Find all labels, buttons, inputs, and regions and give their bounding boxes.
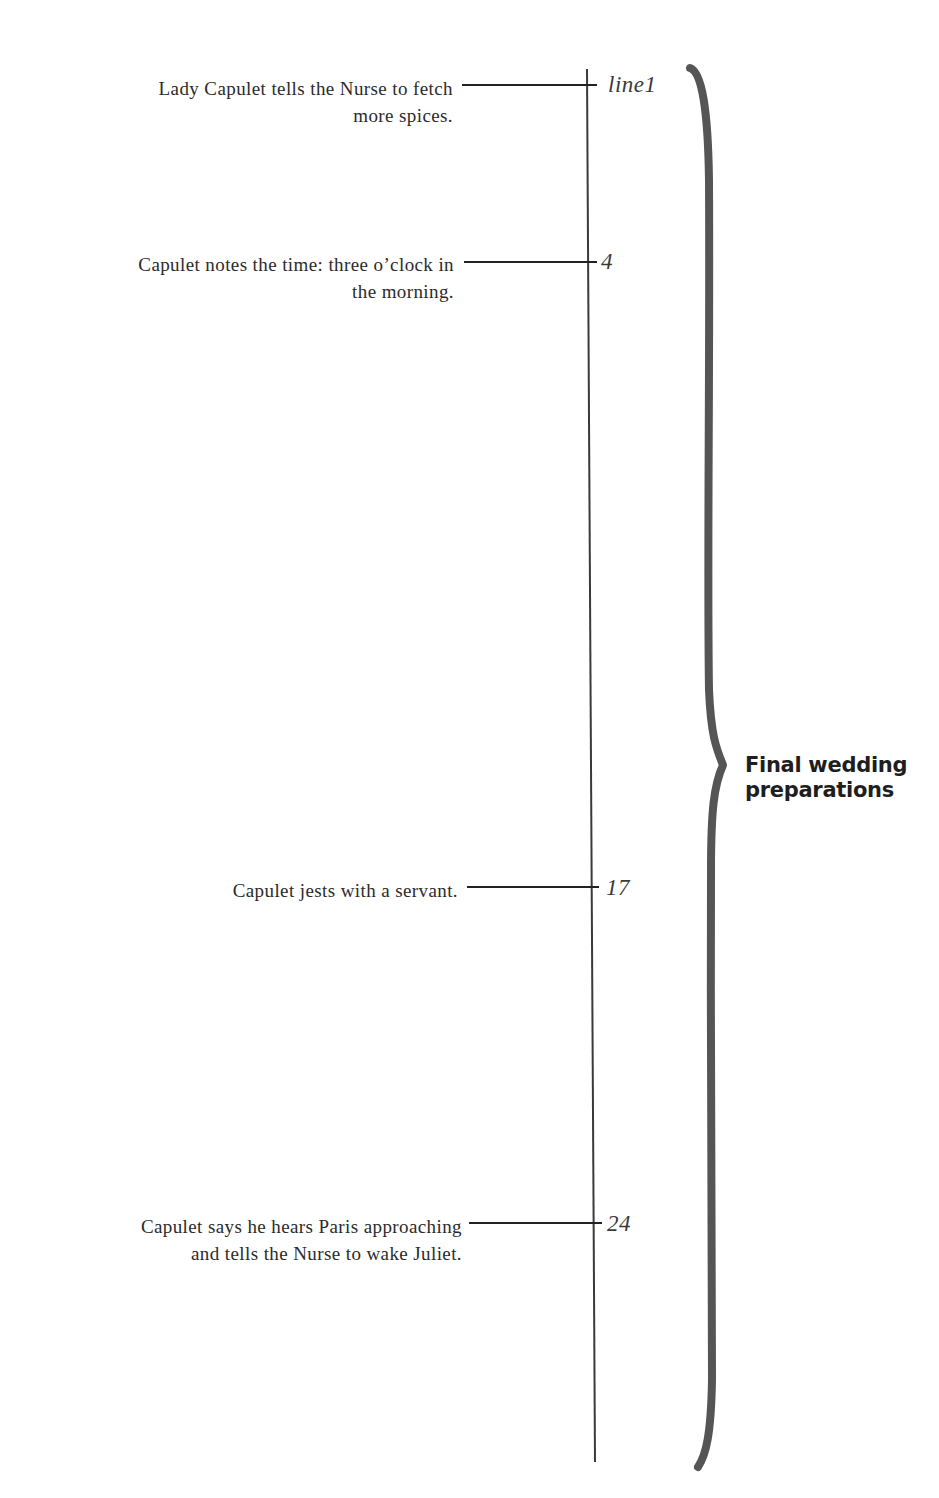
curly-brace-icon xyxy=(690,68,723,1467)
line-number-label: 24 xyxy=(607,1211,631,1237)
event-text-line: Capulet says he hears Paris approaching xyxy=(141,1213,462,1240)
event-description: Lady Capulet tells the Nurse to fetch mo… xyxy=(159,75,453,129)
event-text-line: and tells the Nurse to wake Juliet. xyxy=(141,1240,462,1267)
brace-label-line: Final wedding xyxy=(745,753,907,778)
line-number-label: 4 xyxy=(601,249,613,275)
brace-label: Final wedding preparations xyxy=(745,753,907,803)
event-text-line: more spices. xyxy=(159,102,453,129)
event-text-line: the morning. xyxy=(138,278,454,305)
event-description: Capulet says he hears Paris approaching … xyxy=(141,1213,462,1267)
brace-label-line: preparations xyxy=(745,778,907,803)
event-text-line: Lady Capulet tells the Nurse to fetch xyxy=(159,75,453,102)
event-text-line: Capulet jests with a servant. xyxy=(233,877,458,904)
event-description: Capulet jests with a servant. xyxy=(233,877,458,904)
line-number-label: 17 xyxy=(606,875,630,901)
timeline-axis xyxy=(587,69,595,1462)
event-description: Capulet notes the time: three o’clock in… xyxy=(138,251,454,305)
scene-timeline-diagram: Lady Capulet tells the Nurse to fetch mo… xyxy=(0,0,939,1498)
timeline-graphics xyxy=(0,0,939,1498)
line-number-label: line1 xyxy=(608,72,657,98)
event-text-line: Capulet notes the time: three o’clock in xyxy=(138,251,454,278)
